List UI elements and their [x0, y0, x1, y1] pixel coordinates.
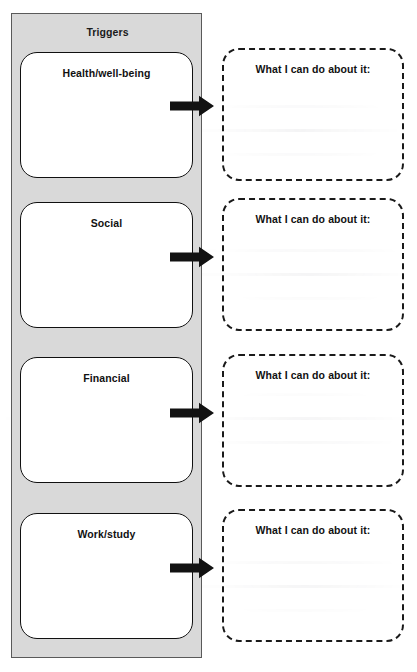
- response-box-label: What I can do about it:: [224, 213, 402, 225]
- response-box-financial[interactable]: What I can do about it:: [222, 354, 404, 487]
- arrow-right-icon-work-study: [170, 557, 215, 579]
- response-box-work-study[interactable]: What I can do about it:: [222, 509, 404, 642]
- response-box-health-well-being[interactable]: What I can do about it:: [222, 48, 404, 181]
- trigger-card-health-well-being[interactable]: Health/well-being: [20, 52, 193, 178]
- triggers-worksheet: Triggers Health/well-being Social Financ…: [0, 0, 417, 672]
- trigger-card-work-study[interactable]: Work/study: [20, 513, 193, 639]
- response-box-label: What I can do about it:: [224, 369, 402, 381]
- arrow-right-icon-social: [170, 246, 215, 268]
- trigger-card-social[interactable]: Social: [20, 202, 193, 328]
- arrow-right-icon-health: [170, 95, 215, 117]
- response-box-social[interactable]: What I can do about it:: [222, 198, 404, 331]
- trigger-card-label: Health/well-being: [21, 67, 192, 79]
- arrow-right-icon-financial: [170, 402, 215, 424]
- response-box-label: What I can do about it:: [224, 63, 402, 75]
- trigger-card-label: Work/study: [21, 528, 192, 540]
- triggers-panel-title: Triggers: [12, 26, 203, 38]
- trigger-card-label: Financial: [21, 372, 192, 384]
- trigger-card-financial[interactable]: Financial: [20, 357, 193, 483]
- trigger-card-label: Social: [21, 217, 192, 229]
- response-box-label: What I can do about it:: [224, 524, 402, 536]
